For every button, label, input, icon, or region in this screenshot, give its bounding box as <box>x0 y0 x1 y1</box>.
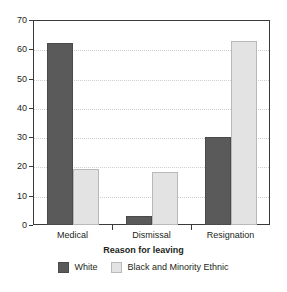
bar-resignation-bme[interactable] <box>231 41 257 226</box>
y-axis-tick-label: 20 <box>2 162 27 171</box>
bars-layer <box>33 20 270 225</box>
bar-dismissal-white[interactable] <box>126 216 152 225</box>
x-axis-title: Reason for leaving <box>0 245 287 255</box>
y-axis-tick-label: 10 <box>2 192 27 201</box>
bar-chart: 010203040506070 MedicalDismissalResignat… <box>0 0 287 292</box>
x-axis-label-dismissal: Dismissal <box>132 230 171 241</box>
y-axis-tick-label: 30 <box>2 133 27 142</box>
legend-swatch-icon <box>111 262 122 273</box>
y-axis-tick-label: 40 <box>2 104 27 113</box>
bar-medical-bme[interactable] <box>73 169 99 225</box>
y-axis-tick-label: 0 <box>2 221 27 230</box>
x-axis-label-medical: Medical <box>57 230 88 241</box>
legend-swatch-icon <box>58 262 69 273</box>
y-axis-tick-label: 60 <box>2 45 27 54</box>
y-axis-tick-label: 50 <box>2 75 27 84</box>
legend-label: White <box>74 262 97 273</box>
legend-label: Black and Minority Ethnic <box>127 262 228 273</box>
chart-legend: White Black and Minority Ethnic <box>0 262 287 273</box>
bar-dismissal-bme[interactable] <box>152 172 178 225</box>
y-axis-tick-label: 70 <box>2 16 27 25</box>
bar-resignation-white[interactable] <box>205 137 231 225</box>
legend-item-white[interactable]: White <box>58 262 97 273</box>
x-axis-label-resignation: Resignation <box>207 230 255 241</box>
x-axis-labels: MedicalDismissalResignation <box>33 230 270 242</box>
legend-item-bme[interactable]: Black and Minority Ethnic <box>111 262 228 273</box>
bar-medical-white[interactable] <box>47 43 73 225</box>
